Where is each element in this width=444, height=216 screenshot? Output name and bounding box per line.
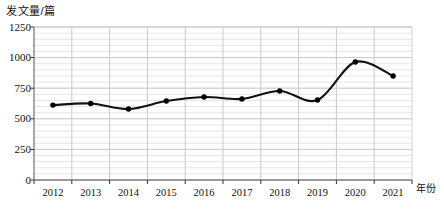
x-tick-label: 2018: [260, 188, 300, 199]
x-tick-label: 2020: [335, 188, 375, 199]
x-tick-label: 2016: [184, 188, 224, 199]
x-axis-title: 年份: [416, 180, 436, 195]
y-axis-ticks: [31, 27, 35, 180]
publication-volume-line-chart: 发文量/篇 1250 1000 750 500 250 0 2012201320…: [0, 0, 444, 216]
x-axis-ticks: [34, 180, 412, 184]
x-tick-label: 2019: [298, 188, 338, 199]
x-tick-label: 2015: [146, 188, 186, 199]
x-tick-label: 2013: [71, 188, 111, 199]
x-tick-label: 2017: [222, 188, 262, 199]
x-tick-label: 2021: [373, 188, 413, 199]
x-tick-label: 2014: [109, 188, 149, 199]
vertical-gridlines: [72, 27, 374, 180]
chart-canvas: [0, 0, 444, 216]
x-tick-label: 2012: [33, 188, 73, 199]
